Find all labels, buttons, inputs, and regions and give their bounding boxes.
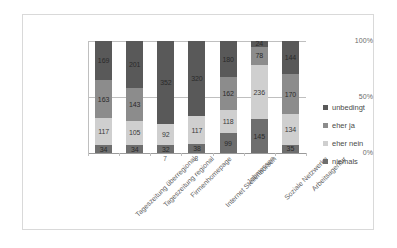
bar-segment: 99 — [220, 133, 237, 153]
bar-column: 16916311734 — [88, 41, 119, 153]
bar-value-label: 24 — [255, 40, 263, 47]
bar-segment: 169 — [95, 41, 112, 80]
bar-segment: 78 — [251, 47, 268, 65]
x-tickmark — [88, 153, 89, 156]
bar-value-label: 117 — [192, 127, 203, 134]
bar-value-label: 99 — [224, 140, 232, 147]
bar-value-label: 180 — [222, 56, 233, 63]
bar-value-label: 32 — [162, 146, 170, 153]
legend-swatch-icon — [323, 141, 328, 146]
bar-value-label: 144 — [285, 54, 296, 61]
bar-segment: 201 — [126, 41, 143, 88]
bar-value-label: 118 — [223, 118, 234, 125]
bar-column: 20114310534 — [119, 41, 150, 153]
bar-value-label: 134 — [285, 126, 296, 133]
bar-segment: 105 — [126, 121, 143, 145]
bar-value-label: 163 — [98, 96, 109, 103]
bar-column: 18016211899 — [213, 41, 244, 153]
legend-item[interactable]: niemals — [323, 157, 395, 166]
legend-swatch-icon — [323, 159, 328, 164]
bar-value-label: 105 — [129, 129, 140, 136]
chart-screenshot: 100% 50% 0% 1691631173420114310534352923… — [0, 0, 397, 248]
bar-value-label: 352 — [160, 79, 171, 86]
bar-value-label: 201 — [129, 61, 140, 68]
legend-label: unbedingt — [332, 103, 365, 112]
bar-segment: 118 — [220, 110, 237, 134]
bar-value-label: 34 — [100, 146, 108, 153]
bar-value-label: 145 — [254, 133, 265, 140]
bar-value-label: 162 — [222, 90, 233, 97]
bar-segment: 32 — [157, 145, 174, 153]
legend-label: niemals — [332, 157, 358, 166]
bar-segment: 117 — [95, 118, 112, 145]
chart-legend: unbedingteher jaeher neinniemals — [323, 103, 395, 175]
x-tickmark — [275, 153, 276, 156]
bar-value-label: 78 — [255, 52, 263, 59]
bar-segment: 180 — [220, 41, 237, 77]
x-tickmark — [306, 153, 307, 156]
x-tickmark — [181, 153, 182, 156]
gridline-0 — [88, 153, 306, 154]
y-axis-tick-100: 100% — [333, 37, 373, 44]
y-axis-tick-50: 50% — [333, 93, 373, 100]
bar-value-label: 320 — [191, 75, 202, 82]
bar-column: 32011738 — [181, 41, 212, 153]
legend-item[interactable]: unbedingt — [323, 103, 395, 112]
bar-segment: 143 — [126, 88, 143, 121]
bar-segment: 352 — [157, 41, 174, 124]
bar-stack: 16916311734 — [95, 41, 112, 153]
plot-area: 1691631173420114310534352923232011738180… — [88, 41, 306, 153]
bar-value-label: 38 — [193, 145, 201, 152]
bar-segment: 34 — [126, 145, 143, 153]
bar-segment: 38 — [188, 144, 205, 153]
bar-value-label: 170 — [285, 91, 296, 98]
bar-value-label: 92 — [162, 131, 170, 138]
bar-segment: 170 — [282, 74, 299, 113]
legend-swatch-icon — [323, 123, 328, 128]
bar-segment: 236 — [251, 65, 268, 120]
bar-column: 3529232 — [150, 41, 181, 153]
bar-stack: 14417013435 — [282, 41, 299, 153]
legend-label: eher ja — [332, 121, 355, 130]
x-axis-sub-number: 7 — [163, 155, 167, 162]
bar-segment: 162 — [220, 77, 237, 109]
chart-frame: 100% 50% 0% 1691631173420114310534352923… — [22, 14, 374, 230]
bar-stack: 3529232 — [157, 41, 174, 153]
legend-item[interactable]: eher ja — [323, 121, 395, 130]
bar-series-container: 1691631173420114310534352923232011738180… — [88, 41, 306, 153]
x-axis-label: Jobmessen — [245, 155, 275, 185]
bar-segment: 34 — [95, 145, 112, 153]
legend-swatch-icon — [323, 105, 328, 110]
bar-value-label: 236 — [254, 89, 265, 96]
bar-value-label: 169 — [98, 57, 109, 64]
legend-label: eher nein — [332, 139, 363, 148]
legend-item[interactable]: eher nein — [323, 139, 395, 148]
bar-segment: 134 — [282, 114, 299, 145]
bar-value-label: 117 — [98, 128, 109, 135]
x-tickmark — [119, 153, 120, 156]
bar-column: 14417013435 — [275, 41, 306, 153]
bar-segment: 145 — [251, 119, 268, 153]
x-tickmark — [244, 153, 245, 156]
bar-stack: 18016211899 — [220, 41, 237, 153]
bar-column: 2478236145 — [244, 41, 275, 153]
bar-segment: 320 — [188, 41, 205, 116]
bar-value-label: 143 — [129, 101, 140, 108]
bar-segment: 35 — [282, 145, 299, 153]
x-tickmark — [213, 153, 214, 156]
bar-segment: 92 — [157, 124, 174, 146]
bar-value-label: 34 — [131, 146, 139, 153]
x-tickmark — [150, 153, 151, 156]
bar-value-label: 35 — [287, 145, 295, 152]
bar-segment: 117 — [188, 116, 205, 144]
bar-stack: 20114310534 — [126, 41, 143, 153]
bar-segment: 163 — [95, 80, 112, 118]
bar-stack: 2478236145 — [251, 41, 268, 153]
bar-segment: 144 — [282, 41, 299, 74]
bar-stack: 32011738 — [188, 41, 205, 153]
